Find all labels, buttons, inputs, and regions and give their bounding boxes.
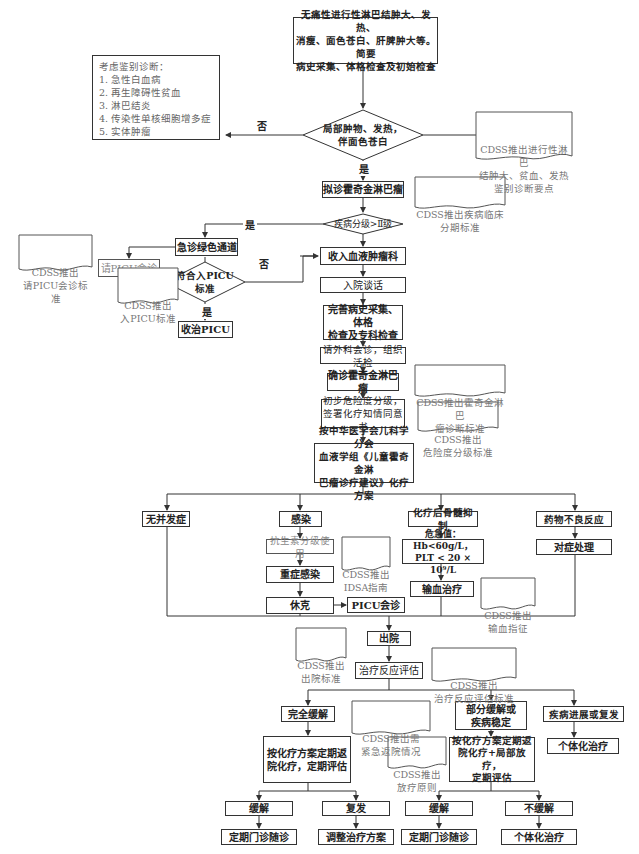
suspect-hodgkin-box: 拟诊霍奇金淋巴瘤 <box>322 181 404 198</box>
document-shape-icon <box>432 648 516 684</box>
partial-remission-box: 部分缓解或 疾病稳定 <box>455 701 527 730</box>
pr-chemo-radio-plan-box: 按化疗方案定期返 院化疗+局部放疗， 定期评估 <box>449 737 535 782</box>
cdss-response-doc: CDSS推出 治疗反应评估标准 <box>432 648 516 682</box>
adverse-reaction-box: 药物不良反应 <box>536 511 612 527</box>
flowchart-canvas: 无痛性进行性淋巴结肿大、发热、 消瘦、面色苍白、肝脾肿大等。简要 病史采集、体格… <box>0 0 639 854</box>
cdss-diagnosis-doc: CDSS推出霍奇金淋巴 瘤诊断标准 <box>415 365 505 397</box>
cdss-discharge-doc: CDSS推出 出院标准 <box>296 628 346 662</box>
label-no-picu: 否 <box>257 256 271 271</box>
decision-picu-criteria: 符合入PICU 标准 <box>175 268 235 296</box>
admission-talk-box: 入院谈话 <box>320 277 406 293</box>
individualized-treatment-box-1: 个体化治疗 <box>547 738 619 754</box>
label-no-local-mass: 否 <box>255 118 269 133</box>
decision-disease-grade: 疾病分级>Ⅱ级 <box>325 216 401 232</box>
differential-diagnosis-box: 考虑鉴别诊断： 1. 急性白血病 2. 再生障碍性贫血 3. 淋巴结炎 4. 传… <box>92 55 220 140</box>
shock-box: 休克 <box>266 597 334 614</box>
document-shape-icon <box>352 701 430 737</box>
no-complication-box: 无并发症 <box>142 511 190 527</box>
label-yes-picu: 是 <box>200 304 214 319</box>
cdss-emergency-return-doc: CDSS推出需 紧急返院情况 <box>352 701 430 735</box>
symptomatic-treatment-box: 对症处理 <box>536 539 612 555</box>
disease-progression-box: 疾病进展或复发 <box>543 706 624 722</box>
picu-consult-box: PICU会诊 <box>347 597 405 613</box>
cdss-picu-admit-doc: CDSS推出 入PICU标准 <box>118 268 178 304</box>
start-symptoms-box: 无痛性进行性淋巴结肿大、发热、 消瘦、面色苍白、肝脾肿大等。简要 病史采集、体格… <box>293 17 438 64</box>
followup-box-1: 定期门诊随诊 <box>221 829 297 845</box>
cdss-differential-doc: CDSS推出进行性淋巴 结肿大、贫血、发热 鉴别诊断要点 <box>476 112 572 160</box>
confirm-hodgkin-box: 确诊霍奇金淋巴瘤 <box>327 373 399 391</box>
no-remission-box: 不缓解 <box>505 801 573 816</box>
myelosuppression-box: 化疗后骨髓抑制 <box>408 511 478 527</box>
document-shape-icon <box>342 537 390 573</box>
cdss-staging-doc: CDSS推出疾病临床 分期标准 <box>415 177 505 209</box>
adjust-plan-box: 调整治疗方案 <box>318 829 394 845</box>
remission-box-2: 缓解 <box>405 801 473 816</box>
followup-box-2: 定期门诊随诊 <box>401 829 477 845</box>
cdss-picu-consult-doc: CDSS推出 请PICU会诊标准 <box>19 235 92 271</box>
transfusion-box: 输血治疗 <box>410 581 474 597</box>
chemo-protocol-box: 按中华医学会儿科学分会 血液学组《儿童霍奇金淋 巴瘤诊疗建议》化疗方案 <box>314 443 414 483</box>
antibiotics-box: 抗生素分级使用 <box>266 539 334 554</box>
label-yes-grade: 是 <box>243 217 257 232</box>
surgery-consult-box: 请外科会诊，组织活检 <box>320 347 406 364</box>
decision-local-mass: 局部肿物、发热， 伴面色苍白 <box>313 118 413 152</box>
document-shape-icon <box>296 628 346 664</box>
complete-remission-box: 完全缓解 <box>281 706 335 722</box>
critical-values-box: 危急值：Hb<60g/L， PLT < 20 × 10⁹/L <box>402 539 484 564</box>
relapse-box: 复发 <box>322 801 390 816</box>
complete-exam-box: 完善病史采集、体格 检查及专科检查 <box>323 305 403 340</box>
individualized-treatment-box-2: 个体化治疗 <box>501 829 577 845</box>
label-yes-local-mass: 是 <box>357 161 371 176</box>
cdss-idsa-doc: CDSS推出 IDSA指南 <box>342 537 390 571</box>
document-shape-icon <box>415 177 505 211</box>
admit-picu-box: 收治PICU <box>178 321 233 338</box>
cdss-transfusion-doc: CDSS推出 输血指征 <box>481 578 535 610</box>
document-shape-icon <box>481 578 535 612</box>
discharge-box: 出院 <box>367 631 411 646</box>
remission-box-1: 缓解 <box>225 801 293 816</box>
severe-infection-box: 重症感染 <box>266 566 334 583</box>
response-evaluation-box: 治疗反应评估 <box>355 662 423 679</box>
cr-chemo-plan-box: 按化疗方案定期返 院化疗，定期评估 <box>263 736 351 783</box>
document-shape-icon <box>415 365 505 399</box>
emergency-green-channel-box: 急诊绿色通道 <box>175 238 238 256</box>
admit-hematology-box: 收入血液肿瘤科 <box>320 247 406 265</box>
infection-box: 感染 <box>279 511 322 527</box>
